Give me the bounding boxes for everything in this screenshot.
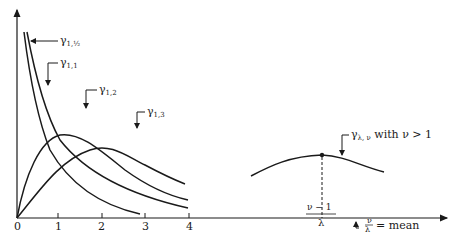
curve-gamma-lambda-nu <box>251 155 384 176</box>
tick-label-3: 3 <box>142 220 149 232</box>
label-gamma-1-3: γ1,3 <box>147 105 165 119</box>
label-gamma-1-2: γ1,2 <box>99 83 117 97</box>
mode-numerator: ν − 1 <box>307 202 331 212</box>
label-gamma-1-1: γ1,1 <box>60 56 78 70</box>
label-gamma-lambda-nu: γλ, ν with ν > 1 <box>351 128 432 142</box>
mean-denominator: λ <box>365 225 370 232</box>
tick-label-1: 1 <box>55 220 62 232</box>
mode-point <box>320 153 324 157</box>
mean-suffix: = mean <box>376 219 419 232</box>
gamma-distribution-diagram: 0 1 2 3 4 γ1,½ γ1,1 γ1,2 γ1,3 γλ, ν with… <box>0 0 455 232</box>
mean-numerator: ν <box>367 216 372 225</box>
tick-label-0: 0 <box>14 220 21 232</box>
tick-label-4: 4 <box>186 220 193 232</box>
label-gamma-1-half: γ1,½ <box>60 34 80 48</box>
curve-gamma-1-3 <box>17 148 185 218</box>
tick-label-2: 2 <box>98 220 105 232</box>
mode-denominator: λ <box>318 217 325 228</box>
curve-gamma-1-1 <box>27 32 188 208</box>
x-ticks <box>58 213 189 218</box>
